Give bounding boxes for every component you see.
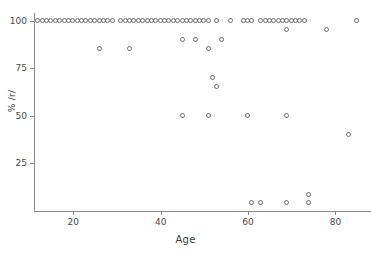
x-tick-label: 60 <box>233 217 263 227</box>
data-point <box>284 113 289 118</box>
y-tick-mark <box>30 163 34 164</box>
data-point <box>210 75 215 80</box>
data-point <box>284 27 289 32</box>
x-tick-label: 80 <box>320 217 350 227</box>
data-point <box>302 18 307 23</box>
y-tick-mark <box>30 116 34 117</box>
data-point <box>214 84 219 89</box>
y-tick-mark <box>30 21 34 22</box>
data-point <box>245 113 250 118</box>
x-tick-label: 20 <box>58 217 88 227</box>
data-point <box>110 18 115 23</box>
x-tick-mark <box>335 211 336 215</box>
x-tick-mark <box>73 211 74 215</box>
data-point <box>354 18 359 23</box>
data-point <box>127 46 132 51</box>
data-point <box>180 37 185 42</box>
y-axis-title: % /r/ <box>7 71 17 131</box>
data-point <box>346 132 351 137</box>
data-point <box>258 200 263 205</box>
data-point <box>97 46 102 51</box>
x-axis-title: Age <box>0 234 371 245</box>
x-tick-label: 40 <box>146 217 176 227</box>
data-point <box>228 18 233 23</box>
y-tick-label: 25 <box>3 158 27 168</box>
data-point <box>214 18 219 23</box>
data-point <box>306 200 311 205</box>
data-point <box>284 200 289 205</box>
x-tick-mark <box>161 211 162 215</box>
data-point <box>180 113 185 118</box>
data-point <box>306 192 311 197</box>
data-point <box>206 46 211 51</box>
data-point <box>206 18 211 23</box>
data-point <box>249 18 254 23</box>
scatter-plot: 20406080 255075100 Age % /r/ <box>0 0 371 255</box>
data-point <box>206 113 211 118</box>
data-point <box>324 27 329 32</box>
data-point <box>249 200 254 205</box>
data-point <box>193 37 198 42</box>
x-tick-mark <box>248 211 249 215</box>
y-axis-line <box>34 13 35 211</box>
data-point <box>219 37 224 42</box>
y-tick-label: 100 <box>3 16 27 26</box>
x-axis-line <box>34 211 371 212</box>
y-tick-mark <box>30 68 34 69</box>
